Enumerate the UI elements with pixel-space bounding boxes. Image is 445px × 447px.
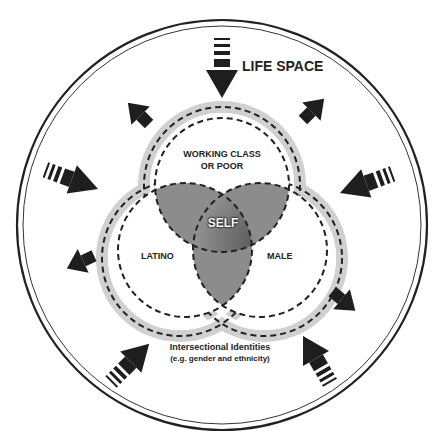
arrow-inward-bottom-right xyxy=(290,329,343,391)
circle-label-working-class: WORKING CLASS OR POOR xyxy=(182,148,262,172)
arrow-outward-lower-left xyxy=(61,244,99,280)
arrow-inward-left xyxy=(40,156,103,203)
caption-line2: (e.g. gender and ethnicity) xyxy=(150,353,290,364)
life-space-title: LIFE SPACE xyxy=(242,58,323,74)
circle-label-latino: LATINO xyxy=(141,251,174,261)
caption-line1: Intersectional Identities xyxy=(150,342,290,353)
circle-label-top-line1: WORKING CLASS xyxy=(182,148,262,160)
arrow-outward-upper-left xyxy=(119,94,159,134)
center-label-self: SELF xyxy=(205,216,241,230)
circle-label-top-line2: OR POOR xyxy=(182,160,262,172)
arrow-outward-upper-right xyxy=(294,90,334,130)
arrow-inward-right xyxy=(335,160,398,207)
circle-label-male: MALE xyxy=(267,251,293,261)
caption: Intersectional Identities (e.g. gender a… xyxy=(150,342,290,364)
arrow-inward-top xyxy=(206,38,238,98)
